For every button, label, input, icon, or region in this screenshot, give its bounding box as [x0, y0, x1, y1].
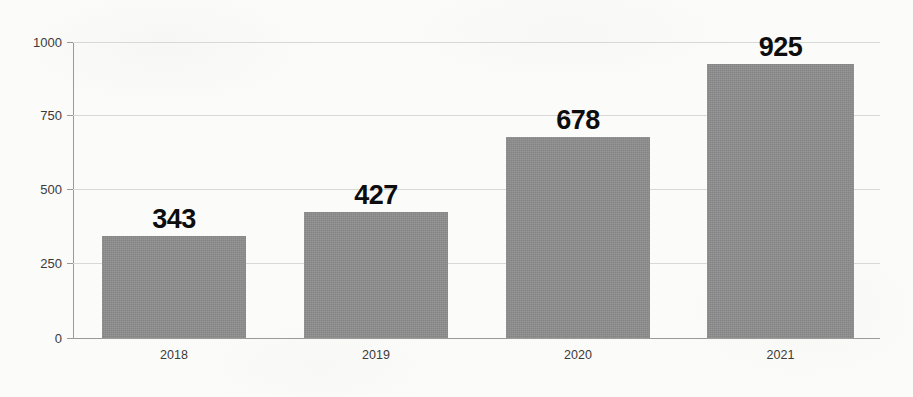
value-label-2019: 427 — [304, 182, 448, 209]
x-tick-label-2020: 2020 — [506, 349, 650, 362]
plot-area — [73, 42, 880, 338]
value-label-2020: 678 — [506, 107, 650, 134]
bar-2021 — [707, 64, 854, 338]
x-tick-label-2019: 2019 — [304, 349, 448, 362]
y-tick-label-500: 500 — [2, 183, 62, 196]
bar-2020 — [506, 137, 650, 338]
y-tick-label-250: 250 — [2, 257, 62, 270]
y-tick-label-0: 0 — [2, 332, 62, 345]
bar-2018 — [102, 236, 246, 338]
y-tick-label-1000: 1000 — [2, 36, 62, 49]
x-tick-label-2018: 2018 — [102, 349, 246, 362]
bar-chart: 1000 750 500 250 0 343 427 678 925 2018 … — [0, 0, 913, 397]
x-tick-label-2021: 2021 — [707, 349, 854, 362]
y-axis-tick-labels: 1000 750 500 250 0 — [0, 0, 62, 397]
bar-2019 — [304, 212, 448, 338]
y-tick-label-750: 750 — [2, 109, 62, 122]
gridline-0 — [73, 338, 880, 339]
value-label-2018: 343 — [102, 206, 246, 233]
value-label-2021: 925 — [707, 34, 854, 61]
